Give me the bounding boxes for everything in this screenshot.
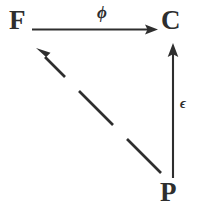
dash-segment-3 [127,139,161,173]
commutative-diagram: F C P ϕ ϵ [0,0,201,212]
arrow-phi [32,25,158,35]
arrow-dashed-diagonal [36,48,161,173]
edge-label-phi: ϕ [97,4,107,21]
arrow-dashed-diagonal-head [36,48,51,61]
dash-segment-1 [45,57,65,77]
dash-segment-2 [79,91,113,125]
node-label-p: P [160,179,177,206]
node-label-c: C [161,7,181,34]
edge-label-epsilon: ϵ [180,97,186,111]
arrow-epsilon [168,43,179,178]
node-label-f: F [9,7,26,34]
